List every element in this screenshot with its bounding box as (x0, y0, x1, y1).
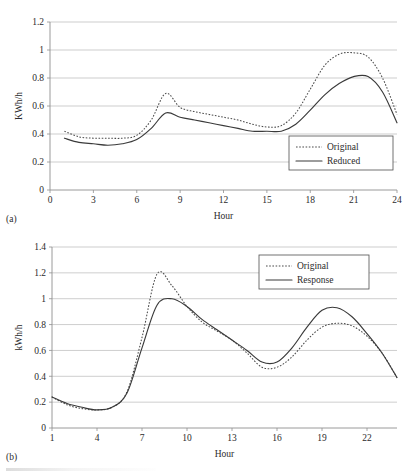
chart-b-line-plot: 00.20.40.60.811.21.41471013161922HourkWh… (0, 235, 409, 474)
x-tick-label-7: 7 (140, 433, 145, 443)
x-tick-label-21: 21 (349, 195, 359, 205)
page-bottom-artifact (6, 468, 156, 471)
y-tick-label-1: 1 (41, 294, 46, 304)
y-tick-label-0.4: 0.4 (32, 129, 44, 139)
y-tick-label-0: 0 (39, 185, 44, 195)
x-axis-title: Hour (214, 211, 234, 221)
y-tick-label-0.2: 0.2 (32, 157, 44, 167)
chart-a-line-plot: 00.20.40.60.811.203691215182124HourKWh/h… (0, 0, 409, 235)
legend-label-original: Original (297, 261, 329, 271)
y-axis-title: kWh/h (14, 324, 24, 350)
legend-label-reduced: Reduced (327, 156, 360, 166)
y-axis-title: KWh/h (14, 92, 24, 120)
series-line-original (64, 52, 397, 138)
x-tick-label-15: 15 (262, 195, 272, 205)
x-tick-label-12: 12 (219, 195, 229, 205)
series-line-response (52, 298, 397, 409)
x-tick-label-18: 18 (306, 195, 316, 205)
x-tick-label-3: 3 (91, 195, 96, 205)
y-tick-label-0.8: 0.8 (32, 73, 44, 83)
figure-a: 00.20.40.60.811.203691215182124HourKWh/h… (0, 0, 409, 235)
x-tick-label-24: 24 (392, 195, 402, 205)
x-axis-title: Hour (215, 449, 235, 459)
panel-label-b: (b) (6, 452, 17, 463)
x-tick-label-19: 19 (317, 433, 327, 443)
x-tick-label-4: 4 (95, 433, 100, 443)
legend-label-original: Original (327, 142, 359, 152)
x-tick-label-10: 10 (182, 433, 192, 443)
y-tick-label-1.2: 1.2 (32, 17, 44, 27)
y-tick-label-0.2: 0.2 (34, 397, 46, 407)
x-tick-label-9: 9 (178, 195, 183, 205)
y-tick-label-1.2: 1.2 (34, 268, 46, 278)
y-tick-label-1.4: 1.4 (34, 242, 46, 252)
figure-b: 00.20.40.60.811.21.41471013161922HourkWh… (0, 235, 409, 474)
legend-label-response: Response (297, 275, 333, 285)
series-line-original (52, 272, 397, 410)
y-tick-label-0.6: 0.6 (34, 346, 46, 356)
y-tick-label-0.6: 0.6 (32, 101, 44, 111)
x-tick-label-16: 16 (272, 433, 282, 443)
series-line-reduced (64, 75, 397, 145)
y-tick-label-0: 0 (41, 423, 46, 433)
x-tick-label-6: 6 (134, 195, 139, 205)
y-tick-label-0.8: 0.8 (34, 320, 46, 330)
x-tick-label-22: 22 (362, 433, 372, 443)
x-tick-label-13: 13 (227, 433, 237, 443)
panel-label-a: (a) (6, 214, 17, 225)
y-tick-label-0.4: 0.4 (34, 372, 46, 382)
x-tick-label-1: 1 (50, 433, 55, 443)
y-tick-label-1: 1 (39, 45, 44, 55)
x-tick-label-0: 0 (48, 195, 53, 205)
